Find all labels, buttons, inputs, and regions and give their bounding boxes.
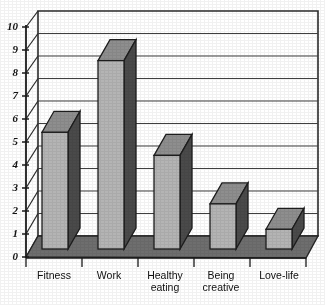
y-tick-label-0: 0 <box>0 251 18 262</box>
plot-area <box>0 0 325 305</box>
y-tick-label-6: 6 <box>0 113 18 124</box>
x-label-love-life-line1: Love-life <box>246 270 312 282</box>
x-label-love-life: Love-life <box>246 270 312 282</box>
y-tick-label-1: 1 <box>0 228 18 239</box>
y-tick-label-3: 3 <box>0 182 18 193</box>
x-label-being-creative-line2: creative <box>190 282 252 294</box>
chart-canvas <box>0 0 325 305</box>
y-tick-label-7: 7 <box>0 90 18 101</box>
y-tick-label-8: 8 <box>0 67 18 78</box>
x-label-fitness-line1: Fitness <box>22 270 86 282</box>
x-axis-ticks <box>26 258 306 267</box>
x-label-being-creative-line1: Being <box>190 270 252 282</box>
x-label-healthy-eating-line2: eating <box>134 282 196 294</box>
bar-healthy-eating <box>154 134 192 249</box>
x-label-work-line1: Work <box>80 270 138 282</box>
depth-connectors <box>26 11 38 257</box>
y-tick-label-4: 4 <box>0 159 18 170</box>
y-tick-label-10: 10 <box>0 21 18 32</box>
bar-fitness <box>42 111 80 249</box>
bar-being-creative <box>210 183 248 249</box>
x-label-fitness: Fitness <box>22 270 86 282</box>
x-label-healthy-eating: Healthy eating <box>134 270 196 293</box>
bar-chart: 10 9 8 7 6 5 4 3 2 1 0 Fitness Work Heal… <box>0 0 325 305</box>
y-tick-label-2: 2 <box>0 205 18 216</box>
x-label-healthy-eating-line1: Healthy <box>134 270 196 282</box>
y-tick-label-5: 5 <box>0 136 18 147</box>
x-label-being-creative: Being creative <box>190 270 252 293</box>
bar-work <box>98 40 136 249</box>
x-label-work: Work <box>80 270 138 282</box>
y-tick-label-9: 9 <box>0 44 18 55</box>
